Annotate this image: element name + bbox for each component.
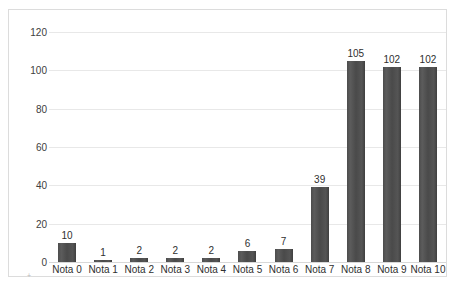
bar-value-label: 6 bbox=[245, 238, 251, 249]
y-axis-tick-label: 80 bbox=[17, 103, 47, 114]
y-axis-tick-label: 0 bbox=[17, 257, 47, 268]
bars-group: 1012226739105102102 bbox=[49, 32, 446, 262]
x-axis-category-labels: Nota 0Nota 1Nota 2Nota 3Nota 4Nota 5Nota… bbox=[49, 264, 446, 282]
bar-slot: 102 bbox=[410, 32, 446, 262]
x-axis-category-label: Nota 0 bbox=[52, 264, 81, 275]
x-axis-category-label: Nota 1 bbox=[88, 264, 117, 275]
x-axis-category-label: Nota 3 bbox=[161, 264, 190, 275]
bar-slot: 102 bbox=[374, 32, 410, 262]
bar-slot: 1 bbox=[85, 32, 121, 262]
bar-slot: 2 bbox=[193, 32, 229, 262]
scan-artifact-mark: + bbox=[27, 274, 31, 278]
bar-slot: 2 bbox=[121, 32, 157, 262]
x-axis-category-label: Nota 6 bbox=[269, 264, 298, 275]
bar[interactable] bbox=[311, 187, 329, 262]
y-axis-tick-label: 120 bbox=[17, 27, 47, 38]
bar-value-label: 10 bbox=[61, 230, 72, 241]
bar[interactable] bbox=[238, 251, 256, 263]
bar[interactable] bbox=[166, 258, 184, 262]
bar-value-label: 102 bbox=[420, 54, 437, 65]
bar[interactable] bbox=[202, 258, 220, 262]
bar-slot: 6 bbox=[229, 32, 265, 262]
x-axis-category-label: Nota 4 bbox=[197, 264, 226, 275]
x-axis-category-label: Nota 10 bbox=[410, 264, 445, 275]
bar-slot: 105 bbox=[338, 32, 374, 262]
bar[interactable] bbox=[419, 67, 437, 263]
y-axis-tick-label: 100 bbox=[17, 65, 47, 76]
y-axis-tick-label: 20 bbox=[17, 218, 47, 229]
bar-value-label: 39 bbox=[314, 174, 325, 185]
bar[interactable] bbox=[94, 260, 112, 262]
bar[interactable] bbox=[130, 258, 148, 262]
x-axis-category-label: Nota 5 bbox=[233, 264, 262, 275]
x-axis-category-label: Nota 9 bbox=[377, 264, 406, 275]
bar-value-label: 102 bbox=[384, 54, 401, 65]
x-axis-category-label: Nota 8 bbox=[341, 264, 370, 275]
bar-value-label: 1 bbox=[100, 247, 106, 258]
bar-slot: 7 bbox=[266, 32, 302, 262]
bar-slot: 10 bbox=[49, 32, 85, 262]
y-axis-tick-labels: 020406080100120 bbox=[17, 32, 47, 262]
bar-chart-figure: 020406080100120 1012226739105102102 Nota… bbox=[0, 0, 458, 289]
y-axis-tick-label: 60 bbox=[17, 142, 47, 153]
bar-value-label: 2 bbox=[136, 245, 142, 256]
y-axis-tick-label: 40 bbox=[17, 180, 47, 191]
bar-value-label: 2 bbox=[209, 245, 215, 256]
x-axis-category-label: Nota 2 bbox=[124, 264, 153, 275]
bar[interactable] bbox=[383, 67, 401, 263]
bar-value-label: 105 bbox=[347, 48, 364, 59]
bar-slot: 2 bbox=[157, 32, 193, 262]
x-axis-category-label: Nota 7 bbox=[305, 264, 334, 275]
chart-plot-frame: 020406080100120 1012226739105102102 Nota… bbox=[8, 9, 447, 277]
gridline bbox=[49, 262, 446, 263]
bar-value-label: 2 bbox=[173, 245, 179, 256]
bar-value-label: 7 bbox=[281, 236, 287, 247]
bar[interactable] bbox=[58, 243, 76, 262]
bar-slot: 39 bbox=[302, 32, 338, 262]
bar[interactable] bbox=[275, 249, 293, 262]
bar[interactable] bbox=[347, 61, 365, 262]
